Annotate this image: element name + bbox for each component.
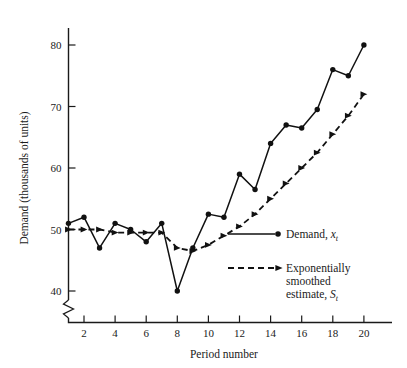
demand-data-point bbox=[330, 67, 335, 72]
smoothed-data-point bbox=[81, 227, 88, 233]
x-tick-label: 12 bbox=[234, 327, 245, 339]
demand-data-point bbox=[346, 73, 351, 78]
demand-data-point bbox=[144, 239, 149, 244]
demand-data-point bbox=[159, 221, 164, 226]
x-tick-label: 18 bbox=[327, 327, 339, 339]
y-tick-label: 70 bbox=[51, 101, 63, 113]
demand-data-point bbox=[221, 215, 226, 220]
x-tick-label: 2 bbox=[81, 327, 87, 339]
y-tick-label: 40 bbox=[51, 285, 63, 297]
axes-group bbox=[64, 28, 393, 323]
smoothed-data-point bbox=[329, 131, 336, 137]
x-tick-label: 16 bbox=[296, 327, 308, 339]
x-tick-label: 14 bbox=[265, 327, 277, 339]
demand-data-point bbox=[252, 187, 257, 192]
legend-group: Demand, xtExponentiallysmoothedestimate,… bbox=[228, 228, 351, 303]
smoothed-data-point bbox=[112, 230, 119, 236]
demand-data-point bbox=[206, 211, 211, 216]
x-axis-title: Period number bbox=[190, 348, 258, 360]
y-tick-label: 50 bbox=[51, 224, 63, 236]
demand-data-point bbox=[175, 288, 180, 293]
legend-smoothed-label: Exponentiallysmoothedestimate, St bbox=[286, 262, 351, 303]
demand-forecast-chart: 40506070802468101214161820 Demand, xtExp… bbox=[0, 0, 407, 368]
chart-page: 40506070802468101214161820 Demand, xtExp… bbox=[0, 0, 407, 368]
x-tick-label: 4 bbox=[112, 327, 118, 339]
demand-data-point bbox=[81, 215, 86, 220]
legend-demand-marker bbox=[275, 231, 281, 237]
smoothed-data-point bbox=[236, 224, 243, 230]
smoothed-data-point bbox=[221, 233, 228, 239]
demand-data-point bbox=[361, 42, 366, 47]
demand-series-line bbox=[68, 45, 363, 291]
smoothed-data-point bbox=[174, 245, 181, 251]
demand-data-point bbox=[268, 141, 273, 146]
smoothed-data-point bbox=[361, 91, 368, 97]
smoothed-data-point bbox=[252, 211, 259, 217]
legend-demand-label: Demand, xt bbox=[286, 228, 339, 243]
x-tick-label: 10 bbox=[203, 327, 215, 339]
smoothed-data-point bbox=[143, 230, 150, 236]
demand-data-point bbox=[299, 125, 304, 130]
demand-data-point bbox=[66, 221, 71, 226]
y-axis-title: Demand (thousands of units) bbox=[18, 111, 31, 244]
smoothed-data-point bbox=[96, 227, 103, 233]
demand-data-point bbox=[315, 107, 320, 112]
demand-data-point bbox=[237, 171, 242, 176]
demand-data-point bbox=[112, 221, 117, 226]
x-tick-label: 20 bbox=[358, 327, 370, 339]
y-tick-label: 60 bbox=[51, 162, 63, 174]
demand-data-point bbox=[283, 122, 288, 127]
legend-smoothed-marker bbox=[275, 265, 282, 271]
x-tick-label: 8 bbox=[175, 327, 181, 339]
series-group bbox=[65, 42, 367, 293]
smoothed-data-point bbox=[267, 196, 274, 202]
y-tick-label: 80 bbox=[51, 39, 63, 51]
x-axis-line bbox=[69, 318, 393, 323]
x-tick-label: 6 bbox=[143, 327, 149, 339]
demand-data-point bbox=[97, 245, 102, 250]
y-axis-break-icon bbox=[64, 300, 74, 318]
